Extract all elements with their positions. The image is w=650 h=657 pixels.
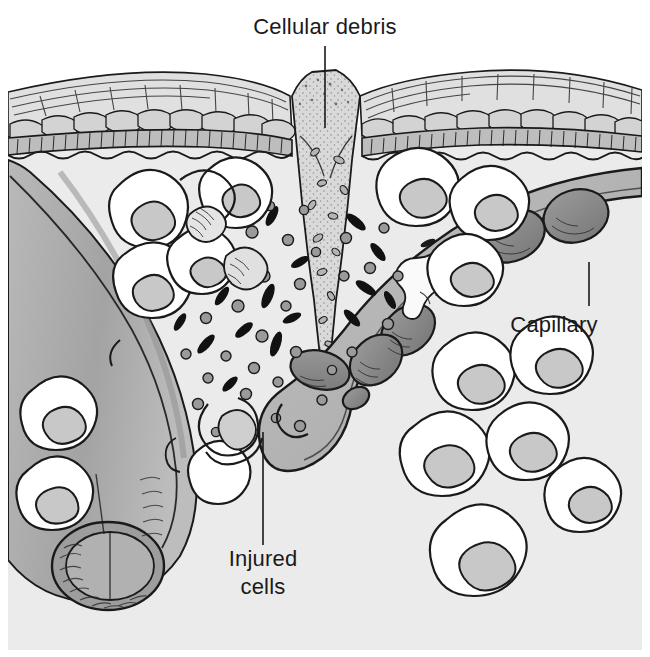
injured-cells-label-line2: cells (240, 574, 285, 599)
figure-canvas: Cellular debris Capillary Injured cells (0, 0, 650, 657)
illustration-svg: Cellular debris Capillary Injured cells (0, 0, 650, 657)
capillary-label: Capillary (510, 312, 597, 337)
cellular-debris-label: Cellular debris (253, 14, 397, 39)
injured-cells-label-line1: Injured (229, 546, 298, 571)
